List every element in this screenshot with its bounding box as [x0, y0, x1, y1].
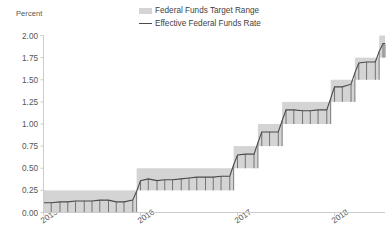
fed-funds-chart: Percent Federal Funds Target Range Effec… [0, 0, 388, 248]
target-range-band-step [282, 102, 331, 124]
plot-area [0, 0, 388, 248]
